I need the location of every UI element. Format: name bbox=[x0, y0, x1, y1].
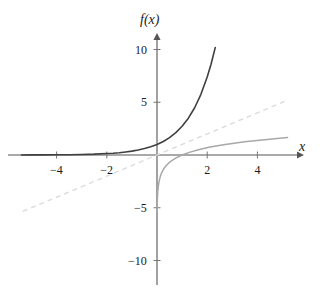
y-tick-label--5: −5 bbox=[134, 202, 147, 214]
plot-canvas bbox=[0, 0, 320, 300]
x-tick-label--4: −4 bbox=[50, 164, 63, 176]
logarithm-curve bbox=[157, 138, 287, 212]
identity-line-curve bbox=[23, 100, 288, 211]
y-tick-label-10: 10 bbox=[135, 44, 147, 56]
x-tick-label--2: −2 bbox=[100, 164, 113, 176]
y-axis-label: f(x) bbox=[140, 13, 159, 27]
x-axis-label: x bbox=[299, 140, 305, 154]
y-tick-label--10: −10 bbox=[128, 255, 147, 267]
axes-group bbox=[8, 33, 304, 285]
x-tick-label-2: 2 bbox=[204, 164, 210, 176]
x-tick-label-4: 4 bbox=[254, 164, 260, 176]
exponential-curve bbox=[21, 48, 215, 155]
y-axis-arrow-icon bbox=[153, 33, 160, 40]
y-tick-label-5: 5 bbox=[141, 96, 147, 108]
function-graph-figure: f(x) x −4−224105−5−10 bbox=[0, 0, 320, 300]
